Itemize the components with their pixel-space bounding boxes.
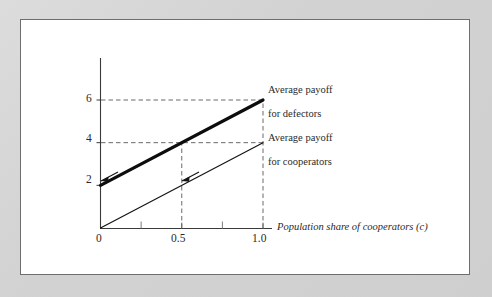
x-axis-title: Population share of cooperators (c) bbox=[277, 221, 428, 232]
x-tick-label-0: 0 bbox=[96, 232, 102, 244]
plot-area: 2 4 6 0 0.5 1.0 Population share of coop… bbox=[0, 0, 492, 297]
annotation-defectors: Average payoff for defectors bbox=[268, 84, 333, 109]
y-tick-label-4: 4 bbox=[86, 132, 92, 144]
y-tick-label-2: 2 bbox=[86, 173, 92, 185]
chart-canvas bbox=[0, 0, 492, 297]
annotation-defectors-line2: for defectors bbox=[268, 108, 333, 121]
y-tick-label-6: 6 bbox=[86, 92, 92, 104]
annotation-cooperators-line2: for cooperators bbox=[268, 156, 333, 169]
annotation-cooperators: Average payoff for cooperators bbox=[268, 132, 333, 157]
figure-frame: 2 4 6 0 0.5 1.0 Population share of coop… bbox=[0, 0, 492, 297]
series-cooperators-line bbox=[101, 143, 264, 228]
annotation-defectors-line1: Average payoff bbox=[268, 84, 333, 97]
x-tick-label-0-5: 0.5 bbox=[171, 232, 185, 244]
annotation-cooperators-line1: Average payoff bbox=[268, 132, 333, 145]
x-tick-label-1-0: 1.0 bbox=[252, 232, 266, 244]
